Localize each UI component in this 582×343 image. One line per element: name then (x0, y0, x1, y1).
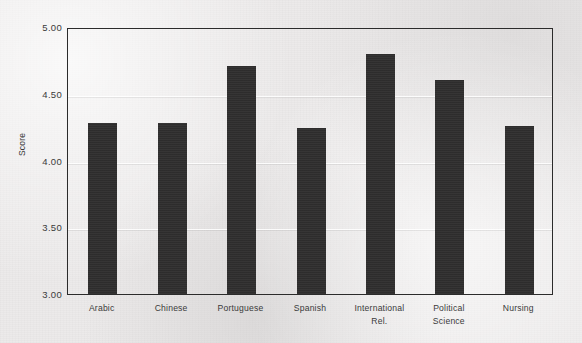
x-axis-tick-label: Nursing (484, 302, 553, 315)
x-axis-tick-label: Spanish (275, 302, 344, 315)
x-axis-tick-label-line: Nursing (484, 302, 553, 315)
bar (435, 80, 464, 294)
y-axis-tick-label: 4.00 (0, 156, 62, 167)
x-axis-tick-label-line: Arabic (67, 302, 136, 315)
bar-chart-figure: Score 3.003.504.004.505.00 ArabicChinese… (0, 0, 582, 343)
x-axis-tick-label: InternationalRel. (345, 302, 414, 327)
x-axis-tick-label: Chinese (136, 302, 205, 315)
bar (158, 123, 187, 294)
x-axis-tick-label-line: Rel. (345, 315, 414, 328)
bar (227, 66, 256, 294)
x-axis-tick-label-line: Science (414, 315, 483, 328)
bar (505, 126, 534, 294)
y-axis-tick-label: 4.50 (0, 89, 62, 100)
x-axis-tick-label-line: International (345, 302, 414, 315)
bar (366, 54, 395, 294)
y-axis-tick-label: 3.00 (0, 289, 62, 300)
x-axis-tick-label-line: Spanish (275, 302, 344, 315)
x-axis-tick-label-line: Portuguese (206, 302, 275, 315)
y-axis-title: Score (17, 133, 27, 156)
plot-area (67, 28, 553, 295)
bar (88, 123, 117, 294)
y-axis-tick-label: 5.00 (0, 22, 62, 33)
x-axis-tick-label: PoliticalScience (414, 302, 483, 327)
x-axis-tick-label: Arabic (67, 302, 136, 315)
x-axis-tick-label: Portuguese (206, 302, 275, 315)
x-axis-tick-label-line: Political (414, 302, 483, 315)
x-axis-tick-label-line: Chinese (136, 302, 205, 315)
bar (297, 128, 326, 294)
y-axis-tick-label: 3.50 (0, 222, 62, 233)
gridline (68, 96, 552, 97)
